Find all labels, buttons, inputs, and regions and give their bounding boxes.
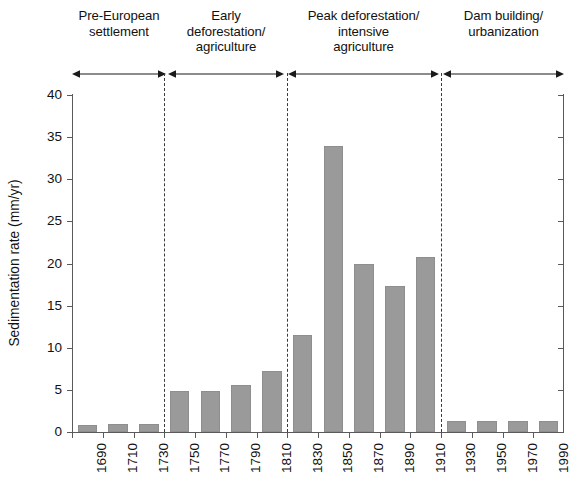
phase-divider [164, 73, 165, 432]
x-axis-tick-label: 1930 [463, 443, 478, 473]
y-axis-tick [67, 306, 73, 307]
y-axis-tick [67, 179, 73, 180]
y-axis-tick [67, 137, 73, 138]
phase-label-peak-deforestation-intensive-agriculture: Peak deforestation/ intensive agricultur… [286, 8, 441, 55]
x-axis-tick-label: 1730 [156, 443, 171, 473]
y-axis-tick [67, 95, 73, 96]
y-axis-tick [67, 390, 73, 391]
x-axis-tick [349, 432, 350, 438]
phase-label-line: Early [166, 8, 286, 24]
x-axis-tick [410, 432, 411, 438]
y-axis-tick-right [558, 179, 564, 180]
x-axis-tick [380, 432, 381, 438]
x-axis-tick [503, 432, 504, 438]
x-axis-tick-label: 1850 [340, 443, 355, 473]
bar [139, 424, 159, 432]
y-axis-tick-label: 0 [34, 424, 62, 439]
y-axis-tick-right [558, 137, 564, 138]
double-arrow-icon [443, 68, 564, 80]
y-axis-tick-right [558, 95, 564, 96]
phase-range-arrow-pre-european-settlement [72, 68, 166, 80]
x-axis-tick-label: 1910 [433, 443, 448, 473]
y-axis-tick-right [558, 432, 564, 433]
plot-area: Sedimentation rate (mm/yr) 0510152025303… [72, 95, 564, 432]
phase-label-line: Pre-European [72, 8, 166, 24]
x-axis-tick-label: 1710 [125, 443, 140, 473]
bar [477, 421, 497, 432]
phase-label-early-deforestation-agriculture: Early deforestation/ agriculture [166, 8, 286, 55]
phase-range-arrow-peak-deforestation-intensive-agriculture [288, 68, 439, 80]
x-axis-tick [287, 432, 288, 438]
x-axis-tick [226, 432, 227, 438]
y-axis-tick [67, 221, 73, 222]
y-axis-tick-label: 15 [34, 298, 62, 313]
x-axis-tick [533, 432, 534, 438]
bar [201, 391, 221, 432]
bar [324, 146, 344, 432]
phase-label-line: Dam building/ [441, 8, 566, 24]
x-axis-tick [72, 432, 73, 438]
y-axis-tick-label: 5 [34, 382, 62, 397]
x-axis-tick-label: 1770 [217, 443, 232, 473]
bar [170, 391, 190, 432]
x-axis-tick-label: 1950 [494, 443, 509, 473]
bar [293, 335, 313, 432]
bar [78, 425, 98, 432]
phase-label-line: agriculture [286, 39, 441, 55]
x-axis-tick-label: 1970 [525, 443, 540, 473]
y-axis-tick-right [558, 348, 564, 349]
phase-label-line: urbanization [441, 24, 566, 40]
x-axis-tick [103, 432, 104, 438]
y-axis-title: Sedimentation rate (mm/yr) [7, 179, 22, 346]
bar [416, 257, 436, 432]
y-axis-tick-right [558, 390, 564, 391]
phase-label-line: deforestation/ [166, 24, 286, 40]
phase-label-line: agriculture [166, 39, 286, 55]
chart-figure: Pre-European settlement Early deforestat… [0, 0, 584, 495]
phase-label-line: settlement [72, 24, 166, 40]
double-arrow-icon [288, 68, 439, 80]
phase-label-dam-building-urbanization: Dam building/ urbanization [441, 8, 566, 39]
x-axis-tick [257, 432, 258, 438]
double-arrow-icon [72, 68, 166, 80]
y-axis-tick-label: 30 [34, 171, 62, 186]
phase-range-arrow-early-deforestation-agriculture [168, 68, 284, 80]
y-axis-tick [67, 348, 73, 349]
x-axis-tick-label: 1790 [248, 443, 263, 473]
x-axis-tick [195, 432, 196, 438]
phase-label-line: Peak deforestation/ [286, 8, 441, 24]
phase-label-pre-european-settlement: Pre-European settlement [72, 8, 166, 39]
phase-range-arrow-dam-building-urbanization [443, 68, 564, 80]
bar [508, 421, 528, 432]
y-axis-tick-right [558, 264, 564, 265]
y-axis-tick-label: 25 [34, 213, 62, 228]
x-axis-tick [441, 432, 442, 438]
y-axis-tick-label: 10 [34, 340, 62, 355]
bar [385, 286, 405, 432]
bar [354, 264, 374, 433]
y-axis-tick-label: 20 [34, 256, 62, 271]
x-axis-tick-label: 1690 [94, 443, 109, 473]
y-axis-tick-label: 40 [34, 87, 62, 102]
bar [539, 421, 559, 432]
x-axis-tick-label: 1750 [187, 443, 202, 473]
x-axis-tick [134, 432, 135, 438]
x-axis-tick-label: 1810 [279, 443, 294, 473]
y-axis-tick-right [558, 221, 564, 222]
x-axis-tick-label: 1890 [402, 443, 417, 473]
y-axis-tick-right [558, 306, 564, 307]
y-axis-tick-label: 35 [34, 129, 62, 144]
phase-annotation-band: Pre-European settlement Early deforestat… [0, 0, 584, 86]
bar [108, 424, 128, 432]
double-arrow-icon [168, 68, 284, 80]
x-axis-tick-label: 1830 [310, 443, 325, 473]
phase-label-line: intensive [286, 24, 441, 40]
bar [231, 385, 251, 432]
bar [262, 371, 282, 432]
x-axis-tick-label: 1990 [556, 443, 571, 473]
x-axis-tick [164, 432, 165, 438]
y-axis-tick [67, 264, 73, 265]
x-axis-tick-label: 1870 [371, 443, 386, 473]
phase-divider [287, 73, 288, 432]
x-axis-tick [318, 432, 319, 438]
